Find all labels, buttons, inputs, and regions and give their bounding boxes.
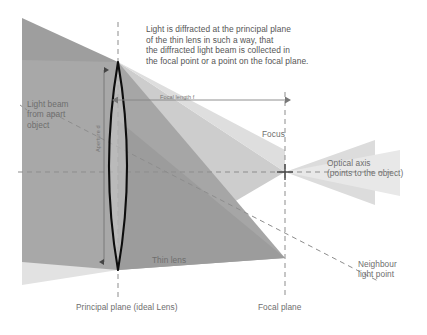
focal-plane-label: Focal plane	[258, 302, 301, 312]
thin-lens-label: Thin lens	[152, 255, 186, 265]
optics-diagram: Light is diffracted at the principal pla…	[0, 0, 427, 335]
explanation-note: Light is diffracted at the principal pla…	[146, 24, 308, 66]
aperture-label: Aperture d	[93, 125, 103, 152]
neighbour-light-point-label: Neighbour light point	[358, 259, 397, 280]
focal-length-label: Focal length f	[160, 92, 194, 102]
light-beam-label: Light beam from apart object	[27, 99, 69, 130]
principal-plane-label: Principal plane (ideal Lens)	[76, 302, 177, 312]
focus-label: Focus	[262, 129, 285, 139]
optical-axis-label: Optical axis (points to the object)	[327, 158, 403, 179]
